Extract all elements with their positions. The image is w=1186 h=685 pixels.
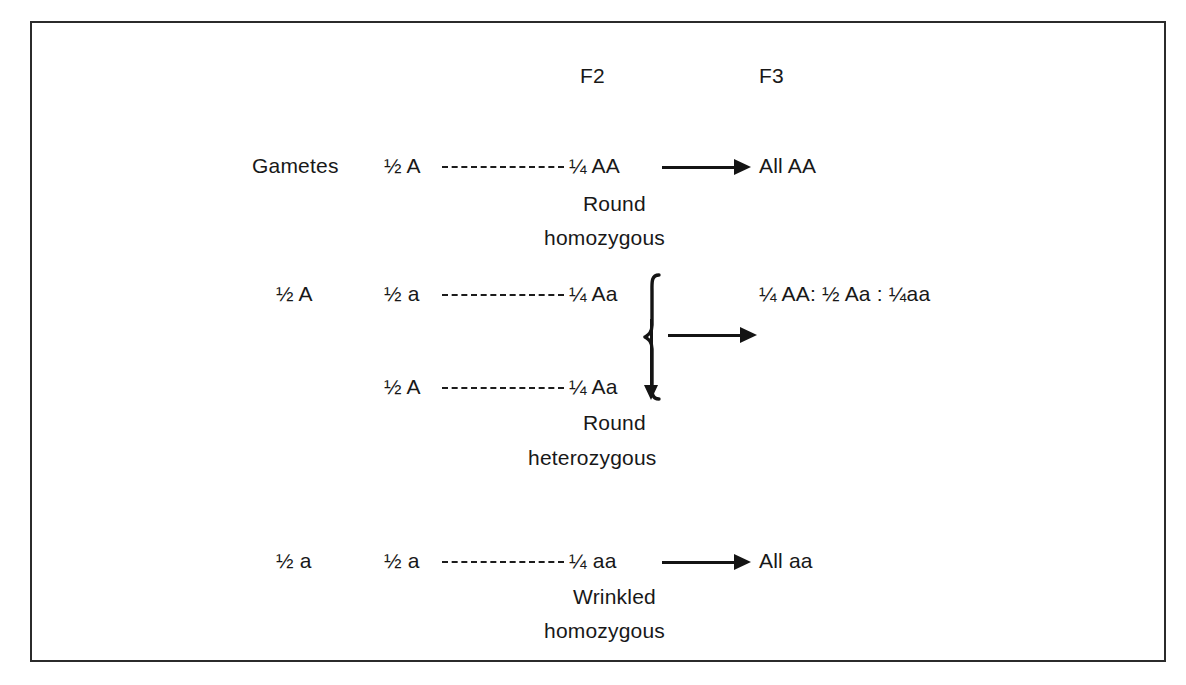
row-4-f3-result: All aa: [759, 550, 813, 571]
row-1-f2-genotype: ¼ AA: [569, 155, 620, 176]
row-3-phenotype-line-2: heterozygous: [528, 447, 656, 468]
column-header-f3: F3: [759, 65, 784, 86]
row-2-left-gamete: ½ A: [276, 283, 313, 304]
row-1-arrow-shaft: [662, 166, 735, 169]
row-3-down-arrow-head-icon: [644, 385, 658, 400]
column-header-f2: F2: [580, 65, 605, 86]
row-1-f3-result: All AA: [759, 155, 816, 176]
row-3-parent-gamete: ½ A: [384, 376, 421, 397]
row-2-arrow-head-icon: [740, 327, 757, 343]
row-3-f2-genotype: ¼ Aa: [569, 376, 618, 397]
row-4-parent-gamete: ½ a: [384, 550, 420, 571]
row-2-dashed-connector: [442, 294, 564, 296]
row-2-parent-gamete: ½ a: [384, 283, 420, 304]
row-1-arrow-head-icon: [734, 159, 751, 175]
row-2-f2-genotype: ¼ Aa: [569, 283, 618, 304]
row-4-dashed-connector: [442, 561, 564, 563]
diagram-canvas: F2 F3 Gametes ½ A ¼ AA All AA Round homo…: [0, 0, 1186, 685]
grouping-brace-icon: [643, 273, 677, 401]
row-4-phenotype-line-2: homozygous: [544, 620, 665, 641]
row-1-phenotype-line-2: homozygous: [544, 227, 665, 248]
row-1-parent-gamete: ½ A: [384, 155, 421, 176]
row-2-arrow-shaft: [668, 334, 741, 337]
row-1-phenotype-line-1: Round: [583, 193, 646, 214]
row-3-phenotype-line-1: Round: [583, 412, 646, 433]
diagram-frame: F2 F3 Gametes ½ A ¼ AA All AA Round homo…: [30, 21, 1166, 662]
row-4-phenotype-line-1: Wrinkled: [573, 586, 656, 607]
row-4-arrow-head-icon: [734, 554, 751, 570]
row-1-dashed-connector: [442, 166, 564, 168]
row-3-down-arrow-shaft: [650, 319, 653, 387]
row-3-dashed-connector: [442, 387, 564, 389]
row-4-f2-genotype: ¼ aa: [569, 550, 617, 571]
gametes-label: Gametes: [252, 155, 339, 176]
row-4-arrow-shaft: [662, 561, 735, 564]
row-4-left-gamete: ½ a: [276, 550, 312, 571]
row-2-f3-result: ¼ AA: ½ Aa : ¼aa: [759, 283, 930, 304]
